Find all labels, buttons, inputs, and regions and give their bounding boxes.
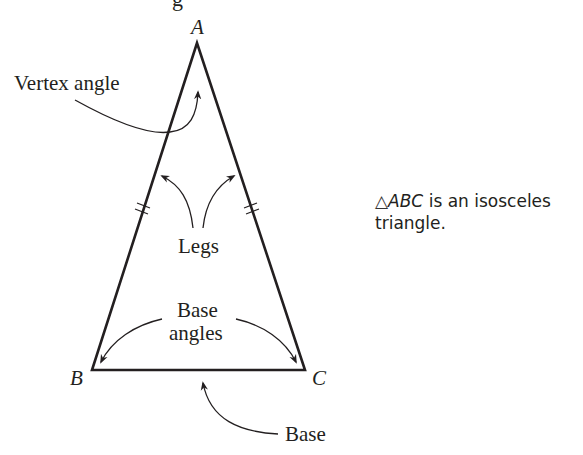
base-arrow	[203, 383, 278, 434]
caption-line2: triangle.	[375, 213, 446, 233]
vertex-label-a: A	[189, 15, 204, 39]
legs-arrow-right	[203, 176, 234, 228]
base-angle-arrow-right	[236, 319, 296, 362]
caption: △ABC is an isosceles triangle.	[375, 190, 583, 234]
vertex-label-c: C	[312, 366, 327, 390]
base-angles-label-line1: Base	[177, 298, 218, 322]
legs-arrow-left	[162, 176, 193, 228]
caption-line1: is an isosceles	[423, 191, 551, 211]
base-label: Base	[285, 422, 326, 446]
vertex-angle-label: Vertex angle	[14, 71, 120, 95]
vertex-label-b: B	[70, 366, 83, 390]
triangle-symbol: △	[375, 191, 388, 211]
triangle-name: ABC	[388, 191, 423, 211]
base-angles-label-line2: angles	[169, 321, 223, 345]
base-angle-arrow-left	[101, 319, 162, 362]
legs-label: Legs	[178, 234, 219, 258]
